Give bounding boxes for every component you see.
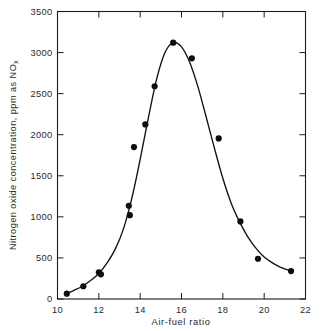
x-axis-title: Air-fuel ratio <box>152 316 211 327</box>
y-tick-label: 0 <box>47 294 53 304</box>
data-point <box>80 283 86 289</box>
data-point <box>237 218 243 224</box>
data-point <box>255 256 261 262</box>
y-tick-label: 3500 <box>30 7 52 17</box>
x-tick-label: 12 <box>93 305 104 315</box>
y-tick-label: 1000 <box>30 212 52 222</box>
data-point <box>170 40 176 46</box>
data-point <box>288 268 294 274</box>
x-tick-label: 18 <box>217 305 228 315</box>
x-tick-label: 20 <box>259 305 270 315</box>
y-tick-label: 2500 <box>30 89 52 99</box>
data-point <box>98 271 104 277</box>
data-point <box>126 203 132 209</box>
x-tick-label: 10 <box>52 305 63 315</box>
data-point <box>127 212 133 218</box>
x-tick-label: 14 <box>135 305 146 315</box>
x-tick-label: 22 <box>300 305 311 315</box>
y-tick-label: 3000 <box>30 48 52 58</box>
y-axis-title: Nitrogen oxide concentration, ppm as NOx <box>8 60 19 250</box>
data-point <box>142 121 148 127</box>
data-point <box>131 144 137 150</box>
nox-vs-air-fuel-ratio-chart: 10121416182022 0500100015002000250030003… <box>0 0 323 331</box>
data-point <box>64 291 70 297</box>
y-tick-label: 2000 <box>30 130 52 140</box>
data-point <box>216 135 222 141</box>
y-axis-title-group: Nitrogen oxide concentration, ppm as NOx <box>8 60 19 250</box>
y-tick-label: 1500 <box>30 171 52 181</box>
data-point <box>152 83 158 89</box>
y-tick-label: 500 <box>36 253 53 263</box>
chart-figure: 10121416182022 0500100015002000250030003… <box>0 0 323 331</box>
data-point <box>189 55 195 61</box>
x-tick-label: 16 <box>176 305 187 315</box>
